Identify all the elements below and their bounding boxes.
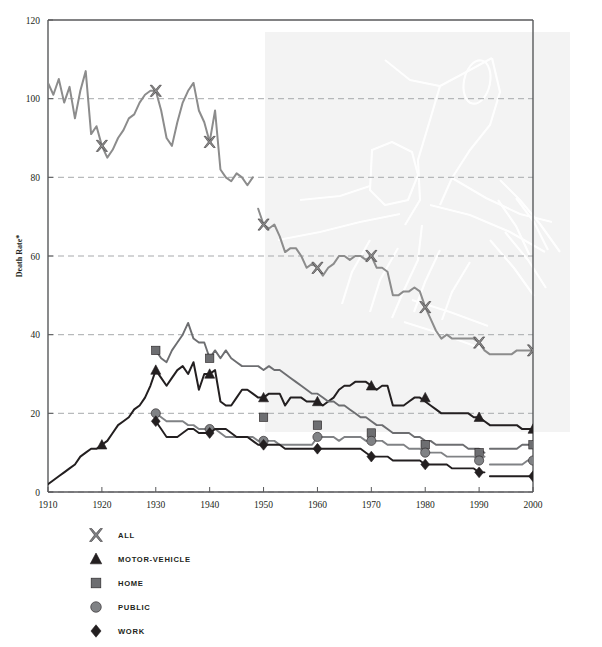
data-point-marker	[152, 346, 160, 354]
data-point-marker	[421, 448, 430, 457]
legend-marker-square-icon	[91, 578, 101, 588]
data-point-marker	[205, 354, 213, 362]
x-tick-label: 1920	[92, 500, 111, 510]
y-tick-label: 20	[31, 409, 41, 419]
data-point-marker	[313, 421, 321, 429]
x-tick-label: 1980	[416, 500, 435, 510]
y-tick-label: 60	[31, 252, 41, 262]
x-tick-label: 1950	[254, 500, 273, 510]
y-tick-label: 80	[31, 173, 41, 183]
legend-label: HOME	[118, 579, 144, 588]
shaded-band	[265, 32, 570, 432]
chart-canvas: 020406080100120 191019201930194019501960…	[0, 0, 602, 647]
x-tick-label: 1930	[146, 500, 165, 510]
y-tick-label: 120	[26, 16, 41, 26]
legend-label: PUBLIC	[118, 603, 150, 612]
y-tick-label: 40	[31, 330, 41, 340]
data-point-marker	[367, 429, 375, 437]
x-tick-label: 1940	[200, 500, 219, 510]
legend-label: MOTOR-VEHICLE	[118, 555, 191, 564]
legend-item-public[interactable]: PUBLIC	[91, 602, 151, 613]
x-tick-label: 1910	[39, 500, 58, 510]
data-point-marker	[259, 413, 267, 421]
x-tick-label: 1990	[470, 500, 489, 510]
legend-label: WORK	[118, 627, 145, 636]
legend-item-home[interactable]: HOME	[91, 578, 143, 588]
data-point-marker	[313, 432, 322, 441]
accident-death-rate-chart: 020406080100120 191019201930194019501960…	[0, 0, 602, 647]
x-tick-label: 2000	[524, 500, 543, 510]
x-tick-label: 1960	[308, 500, 327, 510]
legend-marker-circle-icon	[91, 602, 102, 613]
y-tick-label: 100	[26, 94, 41, 104]
data-point-marker	[421, 441, 429, 449]
data-point-marker	[475, 456, 484, 465]
data-point-marker	[367, 436, 376, 445]
y-axis-title: Death Rate*	[15, 235, 24, 277]
legend-label: ALL	[118, 531, 135, 540]
y-tick-label: 0	[35, 488, 40, 498]
x-tick-label: 1970	[362, 500, 381, 510]
data-point-marker	[475, 448, 483, 456]
